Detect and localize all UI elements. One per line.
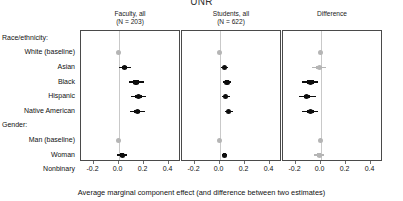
estimate-point — [222, 153, 227, 158]
x-tick-mark — [143, 161, 144, 164]
estimate-point — [308, 109, 313, 114]
estimate-point — [133, 80, 138, 85]
estimate-point — [308, 80, 313, 85]
row-label: Nonbinary — [0, 161, 78, 176]
row-group-label: Gender: — [0, 118, 78, 133]
row-tick — [181, 141, 182, 142]
row-label-column: Race/ethnicity:White (baseline)AsianBlac… — [0, 30, 78, 176]
x-tick-label: 0.2 — [138, 165, 148, 172]
estimate-point — [217, 138, 222, 143]
x-tick-label: 0.2 — [239, 165, 249, 172]
row-tick — [80, 53, 81, 54]
row-tick — [282, 126, 283, 127]
row-tick — [80, 141, 81, 142]
row-tick — [80, 82, 81, 83]
row-label: Native American — [0, 103, 78, 118]
row-tick — [80, 68, 81, 69]
row-tick — [80, 155, 81, 156]
figure-title: UNR — [0, 0, 403, 7]
estimate-point — [116, 50, 121, 55]
row-label: Man (baseline) — [0, 132, 78, 147]
row-tick — [181, 82, 182, 83]
row-tick — [181, 38, 182, 39]
panel-sample-size: (N = 203) — [80, 18, 180, 26]
row-tick — [181, 126, 182, 127]
estimate-point — [224, 80, 229, 85]
x-tick-label: -0.2 — [187, 165, 199, 172]
row-tick — [181, 111, 182, 112]
row-tick — [282, 68, 283, 69]
x-axis-caption: Average marginal component effect (and d… — [0, 188, 403, 197]
row-tick — [282, 111, 283, 112]
row-tick — [181, 53, 182, 54]
x-tick-mark — [118, 161, 119, 164]
row-tick — [80, 38, 81, 39]
row-tick — [282, 53, 283, 54]
panel-faculty-all — [80, 30, 180, 161]
estimate-point — [116, 138, 121, 143]
panel-header-difference: Difference — [282, 10, 382, 18]
x-tick-mark — [194, 161, 195, 164]
x-tick-mark — [345, 161, 346, 164]
estimate-point — [317, 65, 322, 70]
x-tick-mark — [320, 161, 321, 164]
panel-title: Students, all — [181, 10, 281, 18]
panel-title: Faculty, all — [80, 10, 180, 18]
row-tick — [282, 155, 283, 156]
estimate-point — [217, 50, 222, 55]
row-tick — [80, 111, 81, 112]
estimate-point — [120, 153, 125, 158]
row-label: Asian — [0, 59, 78, 74]
row-label: Black — [0, 74, 78, 89]
panel-header-faculty-all: Faculty, all(N = 203) — [80, 10, 180, 25]
estimate-point — [222, 65, 227, 70]
x-tick-mark — [219, 161, 220, 164]
panel-sample-size: (N = 622) — [181, 18, 281, 26]
x-tick-label: 0.4 — [163, 165, 173, 172]
row-label: Hispanic — [0, 88, 78, 103]
estimate-point — [136, 94, 141, 99]
forest-plot-figure: UNR Race/ethnicity:White (baseline)Asian… — [0, 0, 403, 201]
estimate-point — [317, 153, 322, 158]
x-tick-mark — [168, 161, 169, 164]
x-tick-label: 0.4 — [365, 165, 375, 172]
panel-title: Difference — [282, 10, 382, 18]
x-tick-label: 0.0 — [113, 165, 123, 172]
row-tick — [282, 82, 283, 83]
estimate-point — [226, 109, 231, 114]
row-tick — [282, 38, 283, 39]
estimate-point — [318, 138, 323, 143]
estimate-point — [318, 50, 323, 55]
estimate-point — [223, 94, 228, 99]
row-label: Woman — [0, 147, 78, 162]
row-tick — [80, 126, 81, 127]
panel-header-students-all: Students, all(N = 622) — [181, 10, 281, 25]
x-tick-mark — [295, 161, 296, 164]
row-tick — [282, 141, 283, 142]
x-tick-mark — [93, 161, 94, 164]
estimate-point — [135, 109, 140, 114]
x-tick-mark — [244, 161, 245, 164]
row-tick — [282, 97, 283, 98]
row-tick — [80, 97, 81, 98]
x-tick-mark — [370, 161, 371, 164]
estimate-point — [122, 65, 127, 70]
x-tick-label: 0.0 — [214, 165, 224, 172]
x-tick-label: 0.0 — [315, 165, 325, 172]
x-tick-label: 0.4 — [264, 165, 274, 172]
x-tick-label: 0.2 — [340, 165, 350, 172]
row-tick — [181, 97, 182, 98]
x-tick-label: -0.2 — [288, 165, 300, 172]
row-group-label: Race/ethnicity: — [0, 30, 78, 45]
panel-difference — [282, 30, 382, 161]
row-tick — [181, 155, 182, 156]
row-label: White (baseline) — [0, 45, 78, 60]
panel-students-all — [181, 30, 281, 161]
x-tick-label: -0.2 — [86, 165, 98, 172]
row-tick — [181, 68, 182, 69]
estimate-point — [304, 94, 309, 99]
x-tick-mark — [269, 161, 270, 164]
